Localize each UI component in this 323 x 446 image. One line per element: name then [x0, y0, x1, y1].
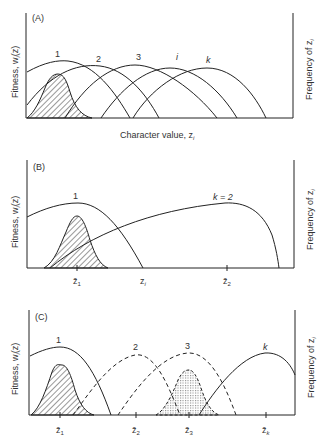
curve-label-2: 2: [133, 342, 138, 352]
tick-label-zi: zi: [140, 276, 147, 287]
curve-label-1: 1: [56, 335, 61, 345]
tick-label-z2: z̄2: [132, 425, 141, 436]
tick-label-z2: z̄2: [223, 276, 232, 287]
fitness-curve-k: [199, 353, 295, 415]
fitness-curve-k: [133, 68, 266, 118]
x-axis-label: Character value, zi: [120, 130, 195, 141]
frequency-distribution-hatched: [27, 74, 92, 118]
panel-label: (A): [32, 13, 44, 23]
tick-label-z3: z̄3: [185, 425, 194, 436]
y-axis-right-label: Frequency of zi: [306, 336, 317, 398]
curve-label-k: k: [263, 342, 268, 352]
frequency-distribution-1-hatched: [31, 365, 94, 415]
y-axis-left-label: Fitness, wi(z): [10, 343, 21, 395]
panel-c: (C) 1 2 3 k z̄1 z̄2 z̄3 z̄k Fitness, wi(…: [10, 310, 317, 436]
fitness-curve-2-dashed: [73, 355, 180, 415]
y-axis-right-label: Frequency of zi: [305, 188, 316, 250]
curve-label-1: 1: [73, 191, 78, 201]
frequency-distribution-3-stippled: [156, 370, 219, 415]
y-axis-right-label: Frequency of zi: [304, 38, 315, 100]
panel-b: (B) 1 k = 2 z̄1 zi z̄2 Fitness, wi(z) Fr…: [10, 160, 316, 287]
frequency-distribution-hatched: [44, 216, 108, 268]
curve-label-3: 3: [185, 341, 190, 351]
y-axis-left-label: Fitness, wi(z): [10, 46, 21, 98]
curve-label-k2: k = 2: [213, 192, 233, 202]
tick-label-z1: z̄1: [56, 425, 65, 436]
curve-label-k: k: [206, 55, 211, 65]
y-axis-left-label: Fitness, wi(z): [10, 196, 21, 248]
curve-label-2: 2: [96, 54, 101, 64]
curve-label-3: 3: [136, 52, 141, 62]
panel-a: (A) 1 2 3 i k Character value, zi Fitnes…: [10, 13, 315, 141]
panel-label: (C): [35, 312, 48, 322]
figure: (A) 1 2 3 i k Character value, zi Fitnes…: [0, 0, 323, 446]
panel-label: (B): [33, 162, 45, 172]
tick-label-z1: z̄1: [73, 276, 82, 287]
curve-label-i: i: [176, 52, 179, 62]
tick-label-zk: z̄k: [262, 425, 271, 436]
curve-label-1: 1: [55, 49, 60, 59]
